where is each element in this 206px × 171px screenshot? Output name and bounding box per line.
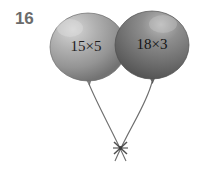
balloon-strings — [89, 82, 152, 161]
string-knot-icon — [113, 142, 128, 154]
worksheet-problem: 16 — [0, 0, 206, 171]
balloon-left[interactable]: 15×5 — [50, 13, 126, 86]
balloon-right[interactable]: 18×3 — [115, 11, 189, 84]
balloons-figure: 15×5 18×3 — [0, 0, 206, 171]
balloon-right-highlight-icon — [149, 15, 177, 33]
balloon-left-highlight-icon — [57, 19, 83, 37]
balloon-left-expression: 15×5 — [71, 38, 102, 54]
balloon-right-expression: 18×3 — [137, 36, 168, 52]
